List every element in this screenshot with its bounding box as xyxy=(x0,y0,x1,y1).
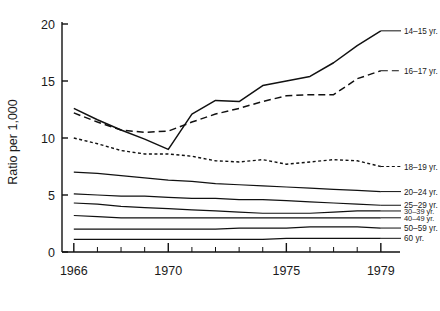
series-label-50-59-yr-: 50–59 yr. xyxy=(404,224,438,233)
series-labels: 14–15 yr.16–17 yr.18–19 yr.20–24 yr.25–2… xyxy=(381,27,438,243)
line-chart: 05101520 1966197019751979 14–15 yr.16–17… xyxy=(0,0,440,311)
series-label-16-17-yr-: 16–17 yr. xyxy=(404,67,438,76)
series-label-60-yr-: 60 yr. xyxy=(404,234,424,243)
series-line-30-39-yr- xyxy=(74,203,381,213)
series-line-60-yr- xyxy=(74,238,381,239)
y-axis: 05101520 xyxy=(41,18,68,260)
y-tick-label: 20 xyxy=(41,18,55,32)
x-axis: 1966197019751979 xyxy=(60,243,400,278)
y-axis-title: Ratio per 1,000 xyxy=(6,99,20,185)
series-label-20-24-yr-: 20–24 yr. xyxy=(404,188,438,197)
x-tick-label: 1970 xyxy=(154,264,182,278)
series-label-14-15-yr-: 14–15 yr. xyxy=(404,27,438,36)
x-tick-label: 1979 xyxy=(367,264,395,278)
y-tick-label: 0 xyxy=(48,246,55,260)
series-line-25-29-yr- xyxy=(74,194,381,205)
y-tick-label: 5 xyxy=(48,189,55,203)
x-tick-label: 1975 xyxy=(272,264,300,278)
chart-canvas: 05101520 1966197019751979 14–15 yr.16–17… xyxy=(0,0,440,311)
series-label-40-49-yr-: 40–49 yr. xyxy=(404,214,434,223)
series-line-18-19-yr- xyxy=(74,138,381,167)
y-tick-label: 15 xyxy=(41,75,55,89)
series-line-20-24-yr- xyxy=(74,172,381,191)
series-line-14-15-yr- xyxy=(74,31,381,150)
series-line-40-49-yr- xyxy=(74,216,381,218)
series-label-18-19-yr-: 18–19 yr. xyxy=(404,163,438,172)
y-tick-label: 10 xyxy=(41,132,55,146)
series-line-50-59-yr- xyxy=(74,227,381,229)
series-lines xyxy=(74,31,381,240)
x-tick-label: 1966 xyxy=(60,264,88,278)
